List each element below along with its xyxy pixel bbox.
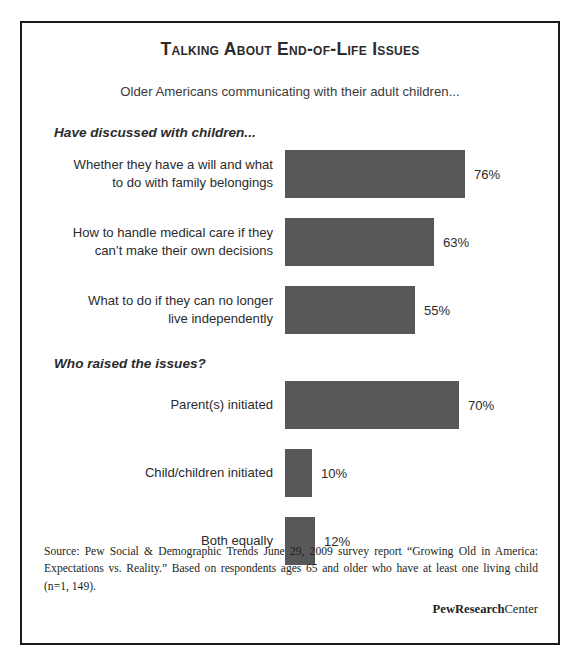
bar-track: 63% (285, 218, 469, 266)
bar-label-line: live independently (22, 310, 273, 328)
chart-figure-frame: Talking About End-of-Life Issues Older A… (20, 21, 560, 645)
bar-row: What to do if they can no longer live in… (22, 286, 558, 334)
brand-bold-part: PewResearch (433, 602, 505, 616)
bar-label-line: to do with family belongings (22, 174, 273, 192)
bar-label-line: Child/children initiated (22, 464, 273, 482)
bar-group: Whether they have a will and what to do … (22, 150, 558, 334)
bar-value-label: 63% (434, 235, 469, 250)
bar-label-line: can’t make their own decisions (22, 242, 273, 260)
bar-row: How to handle medical care if they can’t… (22, 218, 558, 266)
chart-section-who-raised: Who raised the issues? Parent(s) initiat… (22, 356, 558, 565)
bar (285, 218, 434, 266)
bar-row: Parent(s) initiated 70% (22, 381, 558, 429)
bar-track: 55% (285, 286, 450, 334)
pew-research-center-logo: PewResearchCenter (44, 602, 538, 617)
bar-label: Whether they have a will and what to do … (22, 156, 285, 191)
bar-row: Child/children initiated 10% (22, 449, 558, 497)
bar-track: 76% (285, 150, 500, 198)
bar (285, 286, 415, 334)
bar-value-label: 55% (415, 303, 450, 318)
bar-label: What to do if they can no longer live in… (22, 292, 285, 327)
page-title: Talking About End-of-Life Issues (22, 39, 558, 60)
bar-value-label: 70% (459, 398, 494, 413)
bar-group: Parent(s) initiated 70% Child/children i… (22, 381, 558, 565)
bar (285, 150, 465, 198)
section-header: Who raised the issues? (22, 356, 558, 371)
bar-label-line: Whether they have a will and what (22, 156, 273, 174)
bar-value-label: 76% (465, 167, 500, 182)
brand-regular-part: Center (504, 602, 538, 616)
chart-section-discussed: Have discussed with children... Whether … (22, 125, 558, 334)
bar-label: Child/children initiated (22, 464, 285, 482)
bar-label: How to handle medical care if they can’t… (22, 224, 285, 259)
bar-label-line: Parent(s) initiated (22, 396, 273, 414)
section-header: Have discussed with children... (22, 125, 558, 140)
bar-label-line: How to handle medical care if they (22, 224, 273, 242)
bar-track: 10% (285, 449, 347, 497)
bar (285, 449, 312, 497)
source-block: Source: Pew Social & Demographic Trends … (44, 543, 538, 617)
bar-label-line: What to do if they can no longer (22, 292, 273, 310)
bar (285, 381, 459, 429)
bar-label: Parent(s) initiated (22, 396, 285, 414)
bar-track: 70% (285, 381, 494, 429)
chart-subtitle: Older Americans communicating with their… (22, 84, 558, 99)
bar-row: Whether they have a will and what to do … (22, 150, 558, 198)
bar-value-label: 10% (312, 466, 347, 481)
source-note: Source: Pew Social & Demographic Trends … (44, 543, 538, 595)
